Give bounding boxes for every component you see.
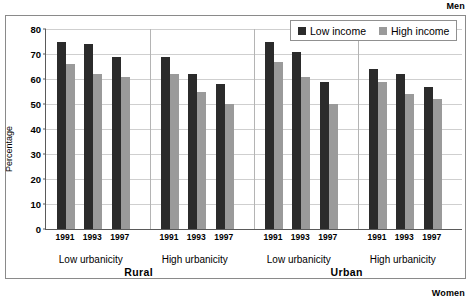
caption-men: Men <box>446 1 465 11</box>
bar-high-income <box>66 64 75 229</box>
legend-label-low-income: Low income <box>310 25 366 37</box>
bar-low-income <box>369 69 378 229</box>
legend-item-high-income: High income <box>379 25 449 37</box>
bar-chart-figure: Men Percentage 01020304050607080 Low inc… <box>0 0 471 300</box>
bar-high-income <box>274 62 283 230</box>
x-axis-major-label: Rural <box>124 266 153 278</box>
bar-low-income <box>188 74 197 229</box>
y-tick-label-0: 0 <box>36 224 41 235</box>
bar-low-income <box>292 52 301 230</box>
bars-layer <box>46 29 462 229</box>
x-tick-label-year: 1991 <box>55 232 74 242</box>
x-axis-sub-label: Low urbanicity <box>59 254 123 265</box>
x-axis-major-labels: RuralUrban <box>45 266 461 280</box>
x-tick-label-year: 1993 <box>83 232 102 242</box>
legend-label-high-income: High income <box>391 25 449 37</box>
bar-low-income <box>161 57 170 230</box>
y-axis-title: Percentage <box>4 104 14 194</box>
bar-high-income <box>433 99 442 229</box>
x-tick-label-year: 1993 <box>187 232 206 242</box>
bar-high-income <box>170 74 179 229</box>
y-tick-label-60: 60 <box>30 74 41 85</box>
bar-high-income <box>405 94 414 229</box>
y-tick-label-10: 10 <box>30 199 41 210</box>
legend-swatch-high-income <box>379 27 387 35</box>
x-tick-label-year: 1997 <box>110 232 129 242</box>
legend-swatch-low-income <box>298 27 306 35</box>
bar-high-income <box>329 104 338 229</box>
x-tick-label-year: 1997 <box>422 232 441 242</box>
y-tick-label-50: 50 <box>30 99 41 110</box>
bar-high-income <box>121 77 130 230</box>
x-tick-label-year: 1991 <box>263 232 282 242</box>
chart-frame: Percentage 01020304050607080 Low income … <box>5 15 466 279</box>
x-tick-label-year: 1993 <box>395 232 414 242</box>
y-tick-label-20: 20 <box>30 174 41 185</box>
bar-high-income <box>378 82 387 230</box>
bar-low-income <box>265 42 274 230</box>
bar-low-income <box>396 74 405 229</box>
y-tick-label-80: 80 <box>30 24 41 35</box>
x-axis-sub-label: Low urbanicity <box>267 254 331 265</box>
y-tick-label-70: 70 <box>30 49 41 60</box>
y-tick-label-40: 40 <box>30 124 41 135</box>
x-axis-sub-label: High urbanicity <box>370 254 436 265</box>
caption-women: Women <box>432 288 465 298</box>
x-tick-label-year: 1993 <box>291 232 310 242</box>
x-tick-label-year: 1997 <box>214 232 233 242</box>
bar-low-income <box>216 84 225 229</box>
bar-high-income <box>93 74 102 229</box>
bar-low-income <box>57 42 66 230</box>
x-tick-label-year: 1991 <box>367 232 386 242</box>
x-axis-year-labels: 1991199319971991199319971991199319971991… <box>45 232 461 244</box>
y-tick-label-30: 30 <box>30 149 41 160</box>
bar-low-income <box>84 44 93 229</box>
bar-low-income <box>320 82 329 230</box>
bar-high-income <box>225 104 234 229</box>
x-axis-sub-label: High urbanicity <box>162 254 228 265</box>
bar-high-income <box>301 77 310 230</box>
bar-high-income <box>197 92 206 230</box>
x-tick-label-year: 1997 <box>318 232 337 242</box>
bar-low-income <box>424 87 433 230</box>
bar-low-income <box>112 57 121 230</box>
x-axis-major-label: Urban <box>330 266 362 278</box>
chart-legend: Low income High income <box>290 20 457 41</box>
legend-item-low-income: Low income <box>298 25 366 37</box>
plot-area: 01020304050607080 <box>45 29 462 230</box>
x-tick-label-year: 1991 <box>159 232 178 242</box>
